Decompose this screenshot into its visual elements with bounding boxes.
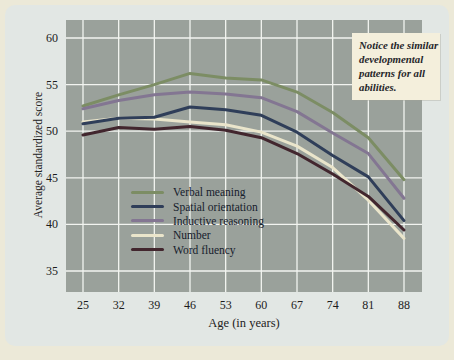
y-tick-label: 45 <box>46 171 58 185</box>
legend-label: Inductive reasoning <box>173 215 264 227</box>
legend-item: Number <box>131 228 264 242</box>
x-tick-label: 46 <box>184 298 196 312</box>
annotation-line: abilities. <box>359 80 434 94</box>
legend-item: Inductive reasoning <box>131 214 264 228</box>
y-axis-title: Average standardized score <box>32 70 44 240</box>
y-tick-label: 35 <box>46 264 58 278</box>
x-tick-label: 60 <box>255 298 267 312</box>
legend-item: Verbal meaning <box>131 185 264 199</box>
legend-swatch <box>131 248 164 251</box>
x-tick-label: 32 <box>113 298 125 312</box>
legend-label: Word fluency <box>173 244 236 256</box>
x-tick-label: 88 <box>398 298 410 312</box>
annotation-line: patterns for all <box>359 66 434 80</box>
y-tick-label: 50 <box>46 124 58 138</box>
x-tick-label: 25 <box>77 298 89 312</box>
legend-swatch <box>131 205 164 208</box>
legend-swatch <box>131 219 164 222</box>
x-tick-label: 81 <box>362 298 374 312</box>
legend-label: Spatial orientation <box>173 201 258 213</box>
x-tick-label: 39 <box>148 298 160 312</box>
legend-swatch <box>131 191 164 194</box>
y-tick-label: 40 <box>46 217 58 231</box>
legend-swatch <box>131 234 164 237</box>
chart-legend: Verbal meaningSpatial orientationInducti… <box>131 185 264 257</box>
annotation-line: Notice the similar <box>359 38 434 52</box>
annotation-box: Notice the similar developmental pattern… <box>352 33 440 100</box>
x-tick-label: 67 <box>291 298 303 312</box>
y-tick-label: 55 <box>46 78 58 92</box>
legend-label: Number <box>173 229 211 241</box>
y-tick-label: 60 <box>46 31 58 45</box>
annotation-line: developmental <box>359 52 434 66</box>
legend-item: Word fluency <box>131 243 264 257</box>
legend-item: Spatial orientation <box>131 199 264 213</box>
x-tick-label: 53 <box>220 298 232 312</box>
x-tick-label: 74 <box>327 298 339 312</box>
x-axis-title: Age (in years) <box>66 316 422 331</box>
legend-label: Verbal meaning <box>173 186 246 198</box>
